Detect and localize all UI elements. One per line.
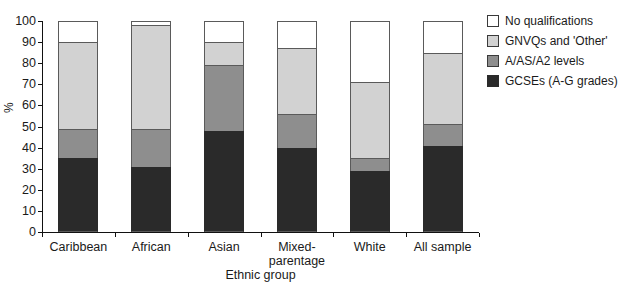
x-tick-mark-0 (42, 233, 43, 237)
bar-segment-a-as-a2-levels (131, 129, 171, 167)
legend-label: GNVQs and 'Other' (505, 35, 608, 48)
y-tick-label-100: 100 (10, 15, 36, 27)
y-tick-mark-40 (38, 148, 42, 149)
x-tick-mark-1 (115, 233, 116, 237)
y-tick-label-30: 30 (10, 163, 36, 175)
x-tick-mark-4 (333, 233, 334, 237)
y-axis-line (42, 21, 43, 233)
bar-segment-gnvqs-and-other- (423, 53, 463, 125)
legend-swatch-icon (487, 75, 499, 87)
legend-item-no-qualifications[interactable]: No qualifications (487, 12, 612, 30)
bar-segment-gnvqs-and-other- (58, 42, 98, 129)
bar-segment-a-as-a2-levels (423, 124, 463, 145)
legend-label: No qualifications (505, 15, 593, 28)
x-tick-mark-5 (406, 233, 407, 237)
y-tick-label-40: 40 (10, 142, 36, 154)
x-tick-mark-2 (188, 233, 189, 237)
legend-label: GCSEs (A-G grades) (505, 75, 618, 88)
y-tick-label-20: 20 (10, 184, 36, 196)
legend-item-gcses-a-g-grades-[interactable]: GCSEs (A-G grades) (487, 72, 612, 90)
bar-mixed-parentage[interactable] (277, 21, 317, 232)
y-tick-label-10: 10 (10, 205, 36, 217)
x-tick-mark-end (479, 233, 480, 237)
bar-segment-no-qualifications (204, 21, 244, 42)
x-label-all-sample: All sample (397, 240, 489, 254)
x-label-line2: parentage (251, 254, 343, 268)
bar-white[interactable] (350, 21, 390, 232)
y-tick-label-90: 90 (10, 36, 36, 48)
y-tick-label-70: 70 (10, 78, 36, 90)
y-tick-label-0: 0 (10, 226, 36, 238)
bar-segment-gnvqs-and-other- (350, 82, 390, 158)
bar-segment-a-as-a2-levels (204, 65, 244, 130)
y-tick-label-50: 50 (10, 121, 36, 133)
legend-swatch-icon (487, 15, 499, 27)
x-tick-mark-3 (261, 233, 262, 237)
bar-segment-gnvqs-and-other- (277, 48, 317, 113)
y-tick-mark-50 (38, 127, 42, 128)
y-axis-ticks: 1009080706050403020100 (0, 0, 36, 286)
bar-segment-gnvqs-and-other- (131, 25, 171, 128)
legend-swatch-icon (487, 55, 499, 67)
bar-segment-gcses-a-g-grades- (131, 167, 171, 232)
bar-segment-no-qualifications (423, 21, 463, 53)
y-tick-mark-90 (38, 42, 42, 43)
legend-label: A/AS/A2 levels (505, 55, 584, 68)
bar-segment-gcses-a-g-grades- (204, 131, 244, 232)
y-tick-label-80: 80 (10, 57, 36, 69)
x-label-line1: All sample (397, 240, 489, 254)
y-tick-mark-10 (38, 211, 42, 212)
legend-item-gnvqs-and-other-[interactable]: GNVQs and 'Other' (487, 32, 612, 50)
bar-asian[interactable] (204, 21, 244, 232)
bar-segment-a-as-a2-levels (350, 158, 390, 171)
bar-segment-gcses-a-g-grades- (58, 158, 98, 232)
legend-swatch-icon (487, 35, 499, 47)
y-tick-mark-30 (38, 169, 42, 170)
bar-segment-no-qualifications (58, 21, 98, 42)
legend-item-a-as-a2-levels[interactable]: A/AS/A2 levels (487, 52, 612, 70)
bar-segment-no-qualifications (350, 21, 390, 82)
x-axis-title: Ethnic group (42, 268, 479, 282)
y-tick-mark-80 (38, 63, 42, 64)
y-tick-label-60: 60 (10, 99, 36, 111)
legend: No qualificationsGNVQs and 'Other'A/AS/A… (487, 12, 612, 92)
bar-segment-gcses-a-g-grades- (350, 171, 390, 232)
bar-segment-gnvqs-and-other- (204, 42, 244, 65)
bar-all-sample[interactable] (423, 21, 463, 232)
bar-segment-no-qualifications (277, 21, 317, 48)
y-tick-mark-100 (38, 21, 42, 22)
y-tick-mark-20 (38, 190, 42, 191)
bar-segment-a-as-a2-levels (277, 114, 317, 148)
bar-segment-gcses-a-g-grades- (277, 148, 317, 232)
y-tick-mark-60 (38, 105, 42, 106)
y-tick-mark-0 (38, 232, 42, 233)
bar-segment-a-as-a2-levels (58, 129, 98, 159)
bar-caribbean[interactable] (58, 21, 98, 232)
bar-segment-gcses-a-g-grades- (423, 146, 463, 233)
y-tick-mark-70 (38, 84, 42, 85)
bar-african[interactable] (131, 21, 171, 232)
